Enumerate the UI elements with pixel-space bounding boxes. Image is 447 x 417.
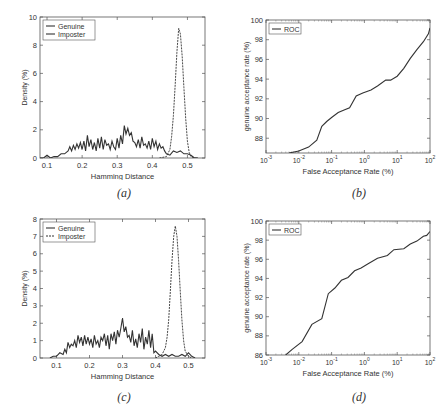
y-tick-label: 0 — [33, 154, 37, 163]
caption-b: (b) — [339, 186, 379, 201]
y-axis-label: genuine acceptance rate (%) — [243, 243, 251, 333]
x-axis-label: False Acceptance Rate (%) — [303, 167, 394, 176]
y-axis-label: Density (%) — [21, 270, 29, 306]
x-tick-label: 101 — [392, 356, 403, 366]
x-tick-label: 0.5 — [183, 361, 193, 370]
x-tick-label: 0.1 — [51, 361, 61, 370]
x-axis-label: False Acceptance Rate (%) — [303, 369, 394, 378]
y-tick-label: 90 — [255, 114, 263, 123]
y-tick-label: 88 — [255, 331, 263, 340]
axes: 10-310-210-1100101102889092949698100Fals… — [243, 16, 436, 177]
y-tick-label: 100 — [250, 16, 263, 25]
plot-area — [266, 20, 430, 153]
chart-a: 0.10.20.30.40.50246810Hamming DistanceDe… — [0, 0, 220, 180]
x-tick-label: 0.2 — [77, 161, 87, 170]
y-tick-label: 2 — [33, 125, 37, 134]
legend-label: Genuine — [58, 23, 85, 30]
x-tick-label: 10-2 — [293, 154, 305, 164]
y-tick-label: 94 — [255, 75, 263, 84]
y-tick-label: 90 — [255, 312, 263, 321]
legend-label: ROC — [284, 227, 300, 234]
y-tick-label: 6 — [33, 69, 37, 78]
x-tick-label: 0.4 — [150, 361, 160, 370]
chart-b: 10-310-210-1100101102889092949698100Fals… — [225, 0, 447, 180]
legend-label: Genuine — [58, 225, 85, 232]
y-axis-label: Density (%) — [21, 69, 29, 105]
x-tick-label: 0.3 — [112, 161, 122, 170]
y-tick-label: 6 — [33, 249, 37, 258]
chart-d: 10-310-210-110010110286889092949698100Fa… — [225, 202, 447, 382]
x-tick-label: 100 — [359, 154, 370, 164]
x-axis-label: Hamming Distance — [91, 172, 154, 180]
chart-d-plot: 10-310-210-110010110286889092949698100Fa… — [225, 202, 447, 382]
legend-label: ROC — [284, 26, 300, 33]
chart-b-plot: 10-310-210-1100101102889092949698100Fals… — [225, 0, 447, 180]
y-tick-label: 8 — [33, 41, 37, 50]
x-tick-label: 0.1 — [42, 161, 52, 170]
x-tick-label: 0.5 — [182, 161, 192, 170]
x-tick-label: 10-3 — [260, 154, 272, 164]
y-tick-label: 98 — [255, 35, 263, 44]
y-tick-label: 88 — [255, 134, 263, 143]
y-tick-label: 10 — [29, 13, 37, 22]
y-tick-label: 98 — [255, 236, 263, 245]
x-tick-label: 100 — [359, 356, 370, 366]
caption-d: (d) — [339, 390, 379, 405]
y-tick-label: 100 — [250, 217, 263, 226]
legend-label: Imposter — [58, 233, 86, 241]
legend: GenuineImposter — [43, 20, 95, 40]
y-tick-label: 92 — [255, 94, 263, 103]
y-tick-label: 4 — [33, 97, 37, 106]
y-tick-label: 86 — [255, 351, 263, 360]
x-tick-label: 102 — [425, 154, 436, 164]
y-tick-label: 96 — [255, 55, 263, 64]
chart-c: 0.10.20.30.40.5012345678Hamming Distance… — [0, 202, 220, 382]
chart-a-plot: 0.10.20.30.40.50246810Hamming DistanceDe… — [0, 0, 220, 180]
y-tick-label: 8 — [33, 215, 37, 224]
x-tick-label: 0.3 — [117, 361, 127, 370]
x-tick-label: 0.4 — [147, 161, 157, 170]
x-tick-label: 101 — [392, 154, 403, 164]
x-axis-label: Hamming Distance — [91, 372, 154, 381]
y-tick-label: 2 — [33, 319, 37, 328]
y-tick-label: 4 — [33, 284, 37, 293]
y-tick-label: 94 — [255, 274, 263, 283]
y-tick-label: 1 — [33, 336, 37, 345]
x-tick-label: 10-1 — [325, 356, 337, 366]
x-tick-label: 10-1 — [325, 154, 337, 164]
y-tick-label: 3 — [33, 301, 37, 310]
x-tick-label: 0.2 — [84, 361, 94, 370]
chart-c-plot: 0.10.20.30.40.5012345678Hamming Distance… — [0, 202, 220, 382]
legend: ROC — [269, 224, 301, 235]
y-axis-label: genuine acceptance rate (%) — [243, 42, 251, 132]
legend: ROC — [269, 23, 301, 34]
x-tick-label: 10-2 — [293, 356, 305, 366]
legend-label: Imposter — [58, 31, 86, 39]
axes: 10-310-210-110010110286889092949698100Fa… — [243, 217, 436, 379]
y-tick-label: 5 — [33, 267, 37, 276]
y-tick-label: 0 — [33, 354, 37, 363]
x-tick-label: 102 — [425, 356, 436, 366]
y-tick-label: 92 — [255, 293, 263, 302]
legend: GenuineImposter — [43, 222, 95, 242]
caption-a: (a) — [104, 186, 144, 201]
plot-area — [266, 221, 430, 355]
truncated-figure-caption — [0, 413, 447, 417]
y-tick-label: 96 — [255, 255, 263, 264]
caption-c: (c) — [104, 390, 144, 405]
y-tick-label: 7 — [33, 232, 37, 241]
